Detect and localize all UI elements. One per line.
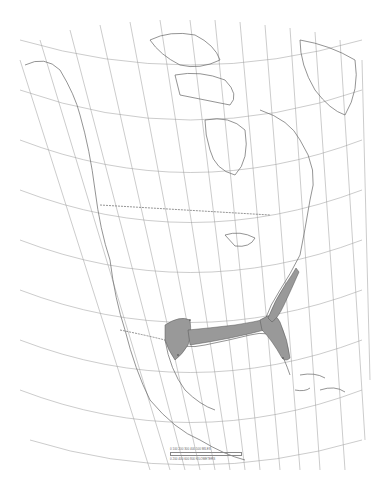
range-map	[0, 0, 383, 478]
scale-bar: 0 100 200 300 400 500 MILES 0 200 400 60…	[170, 447, 242, 461]
coastlines	[25, 33, 356, 460]
scale-km: 0 200 400 600 800 KILOMETERS	[170, 457, 242, 461]
graticule	[20, 20, 370, 470]
scale-bar-graphic	[170, 452, 242, 456]
species-range	[165, 268, 299, 360]
scale-miles: 0 100 200 300 400 500 MILES	[170, 447, 242, 451]
